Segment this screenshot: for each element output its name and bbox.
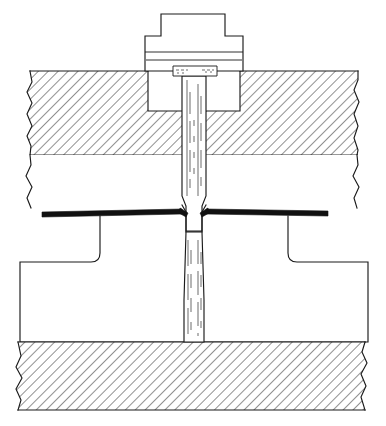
shank-collar-washer: [173, 66, 217, 76]
drawing-root: [0, 0, 386, 426]
fastener-cross-section-figure: [0, 0, 386, 426]
bottom-hatched-slab: [8, 336, 380, 420]
bolt-shank: [182, 76, 206, 342]
